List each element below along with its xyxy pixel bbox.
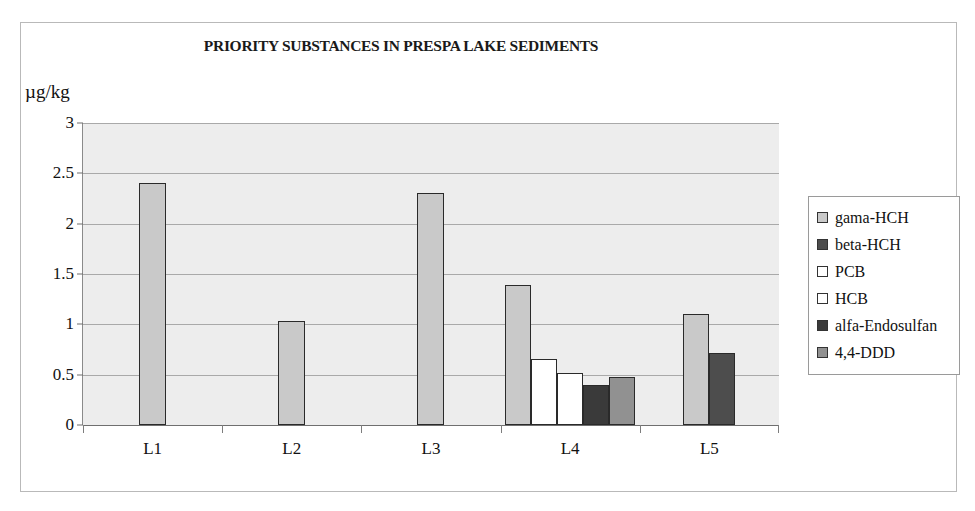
gridline — [83, 425, 779, 426]
legend-label: 4,4-DDD — [835, 344, 895, 362]
legend-label: gama-HCH — [835, 209, 909, 227]
bar-group — [83, 123, 222, 425]
x-tick-mark — [778, 425, 779, 433]
y-tick-label: 0 — [66, 415, 75, 435]
legend-swatch-icon — [817, 293, 828, 304]
x-tick-label: L4 — [501, 439, 640, 459]
legend-item-hcb[interactable]: HCB — [817, 285, 953, 312]
chart-title: PRIORITY SUBSTANCES IN PRESPA LAKE SEDIM… — [21, 37, 781, 55]
x-tick-mark — [361, 425, 362, 433]
legend-swatch-icon — [817, 320, 828, 331]
legend-item-beta-hch[interactable]: beta-HCH — [817, 231, 953, 258]
y-tick-label: 2 — [66, 214, 75, 234]
y-tick-label: 3 — [66, 113, 75, 133]
chart-legend: gama-HCHbeta-HCHPCBHCBalfa-Endosulfan4,4… — [808, 196, 960, 375]
chart-frame: PRIORITY SUBSTANCES IN PRESPA LAKE SEDIM… — [20, 22, 957, 492]
bar-category-l5: L5 — [640, 123, 779, 425]
bar-l3-gama-hch[interactable] — [417, 193, 444, 425]
legend-swatch-icon — [817, 347, 828, 358]
x-tick-label: L1 — [83, 439, 222, 459]
legend-swatch-icon — [817, 266, 828, 277]
bar-l4-alfa-endosulfan[interactable] — [583, 385, 609, 425]
bar-l5-beta-hch[interactable] — [709, 353, 735, 425]
bar-group — [640, 123, 779, 425]
bar-l2-gama-hch[interactable] — [278, 321, 305, 425]
bar-l1-gama-hch[interactable] — [139, 183, 166, 425]
bar-l4-4-4-ddd[interactable] — [609, 377, 635, 425]
chart-page: PRIORITY SUBSTANCES IN PRESPA LAKE SEDIM… — [0, 0, 975, 511]
plot-area: 00.511.522.53 L1L2L3L4L5 — [82, 123, 779, 425]
bar-l5-gama-hch[interactable] — [683, 314, 709, 425]
y-tick-label: 1.5 — [53, 264, 74, 284]
bar-category-l2: L2 — [222, 123, 361, 425]
bar-category-l4: L4 — [501, 123, 640, 425]
bar-l4-gama-hch[interactable] — [505, 285, 531, 425]
bar-category-l3: L3 — [361, 123, 500, 425]
y-axis-unit-label: µg/kg — [25, 81, 70, 103]
bar-l4-hcb[interactable] — [557, 373, 583, 425]
legend-item-4-4-ddd[interactable]: 4,4-DDD — [817, 339, 953, 366]
legend-label: alfa-Endosulfan — [835, 317, 937, 335]
bar-category-l1: L1 — [83, 123, 222, 425]
x-tick-mark — [222, 425, 223, 433]
legend-item-pcb[interactable]: PCB — [817, 258, 953, 285]
bar-group — [361, 123, 500, 425]
legend-swatch-icon — [817, 239, 828, 250]
x-tick-mark — [83, 425, 84, 433]
legend-label: PCB — [835, 263, 865, 281]
y-tick-label: 1 — [66, 314, 75, 334]
bar-group — [222, 123, 361, 425]
x-tick-label: L5 — [640, 439, 779, 459]
x-tick-mark — [501, 425, 502, 433]
legend-item-alfa-endosulfan[interactable]: alfa-Endosulfan — [817, 312, 953, 339]
y-tick-label: 0.5 — [53, 365, 74, 385]
bar-l4-pcb[interactable] — [531, 359, 557, 425]
bar-group — [501, 123, 640, 425]
x-tick-label: L3 — [361, 439, 500, 459]
x-tick-mark — [640, 425, 641, 433]
legend-item-gama-hch[interactable]: gama-HCH — [817, 204, 953, 231]
x-tick-label: L2 — [222, 439, 361, 459]
legend-label: beta-HCH — [835, 236, 901, 254]
legend-swatch-icon — [817, 212, 828, 223]
legend-label: HCB — [835, 290, 868, 308]
y-tick-label: 2.5 — [53, 163, 74, 183]
